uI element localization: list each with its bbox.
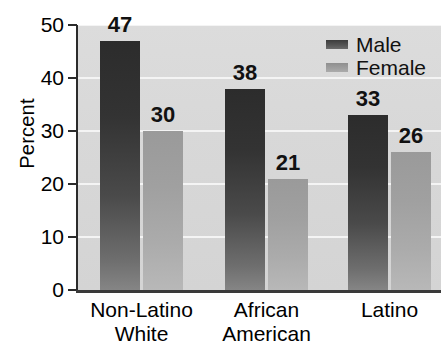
y-axis-tick — [68, 236, 77, 238]
y-axis-tick — [68, 183, 77, 185]
category-label-line1: Latino — [310, 298, 445, 322]
y-axis-tick-label: 0 — [2, 279, 64, 300]
bar-chart: Percent 50403020100 Male Female 47303821… — [0, 0, 445, 359]
legend-item-male[interactable]: Male — [326, 33, 438, 56]
bar-female[interactable] — [391, 152, 431, 290]
category-label: Latino — [310, 298, 445, 322]
bar-male[interactable] — [100, 41, 140, 290]
y-axis-tick-label-wrap: 20 — [0, 173, 64, 194]
y-axis-tick-label: 10 — [2, 226, 64, 247]
y-axis-tick — [68, 130, 77, 132]
y-axis-tick-label-wrap: 30 — [0, 120, 64, 141]
bar-female[interactable] — [143, 131, 183, 290]
legend-swatch-female-icon — [326, 63, 348, 72]
y-axis-tick-label: 50 — [2, 14, 64, 35]
y-axis-tick-label-wrap: 50 — [0, 14, 64, 35]
y-axis-tick-label-wrap: 10 — [0, 226, 64, 247]
y-axis-tick — [68, 24, 77, 26]
y-axis-tick-label-wrap: 40 — [0, 67, 64, 88]
bar-female[interactable] — [268, 179, 308, 290]
legend: Male Female — [326, 33, 438, 79]
legend-item-female[interactable]: Female — [326, 56, 438, 79]
x-axis-line — [76, 290, 441, 293]
y-axis-tick — [68, 77, 77, 79]
bar-value-label: 33 — [338, 88, 398, 110]
y-axis-tick-label-wrap: 0 — [0, 279, 64, 300]
legend-label-female: Female — [356, 57, 426, 78]
y-axis-tick-label: 30 — [2, 120, 64, 141]
bar-value-label: 47 — [90, 14, 150, 36]
bar-value-label: 21 — [258, 152, 318, 174]
bar-male[interactable] — [225, 89, 265, 290]
legend-label-male: Male — [356, 34, 402, 55]
y-axis-tick-label: 20 — [2, 173, 64, 194]
category-label-line2: American — [187, 322, 347, 346]
bar-value-label: 30 — [133, 104, 193, 126]
legend-swatch-male-icon — [326, 40, 348, 49]
y-axis-tick-label: 40 — [2, 67, 64, 88]
bar-value-label: 26 — [381, 125, 441, 147]
bar-value-label: 38 — [215, 62, 275, 84]
